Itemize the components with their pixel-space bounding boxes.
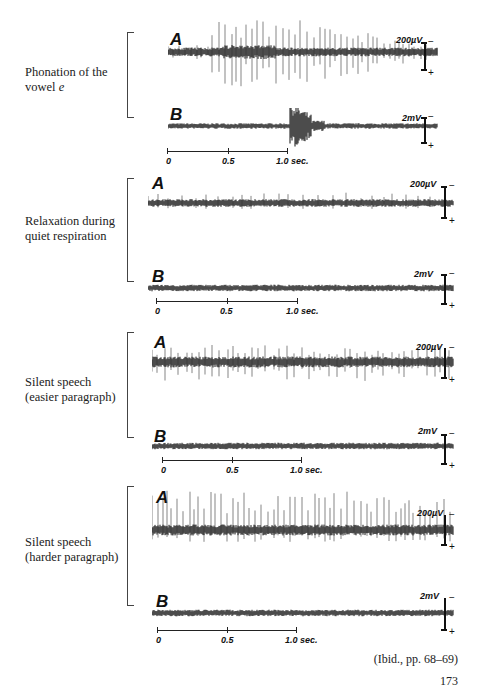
figure-citation: (Ibid., pp. 68–69) — [374, 652, 458, 667]
panel-bracket — [127, 32, 134, 118]
figure-panel-silent-easier: Silent speech (easier paragraph) A 200µV… — [0, 320, 478, 470]
calibration-label-b: 2mV — [418, 426, 437, 436]
calibration-label-a: 200µV — [417, 508, 443, 518]
calibration-label-b: 2mV — [414, 269, 433, 279]
panel-caption: Relaxation during quiet respiration — [25, 214, 115, 244]
figure-panel-phonation: Phonation of the vowel e A 200µV − + B 2… — [0, 0, 478, 175]
emg-trace-a — [148, 188, 454, 216]
panel-bracket — [127, 332, 134, 438]
panel-bracket — [127, 486, 134, 606]
emg-trace-b — [152, 606, 454, 620]
emg-trace-a — [152, 338, 454, 382]
calibration-bar-b — [424, 117, 426, 143]
panel-bracket — [127, 178, 134, 282]
calibration-label-b: 2mV — [420, 591, 439, 601]
emg-trace-a — [168, 14, 438, 90]
calibration-label-a: 200µV — [410, 179, 436, 189]
emg-trace-a — [152, 488, 454, 544]
figure-panel-relaxation: Relaxation during quiet respiration A 20… — [0, 170, 478, 320]
panel-caption: Phonation of the vowel e — [25, 65, 108, 95]
panel-caption: Silent speech (easier paragraph) — [25, 375, 116, 405]
page-number: 173 — [440, 674, 458, 689]
panel-caption: Silent speech (harder paragraph) — [25, 535, 118, 565]
calibration-label-b: 2mV — [402, 113, 421, 123]
calibration-bar-a — [424, 42, 426, 70]
emg-trace-b — [152, 439, 454, 453]
emg-trace-b — [148, 280, 454, 296]
calibration-label-a: 200µV — [416, 342, 442, 352]
calibration-label-a: 200µV — [396, 35, 422, 45]
